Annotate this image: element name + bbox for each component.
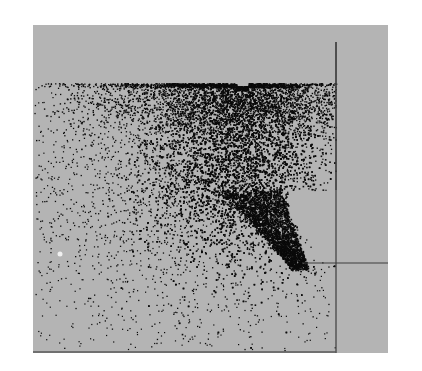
- scatter-plot: [0, 0, 422, 371]
- plot-panel: [33, 25, 388, 353]
- highlights: [58, 252, 63, 257]
